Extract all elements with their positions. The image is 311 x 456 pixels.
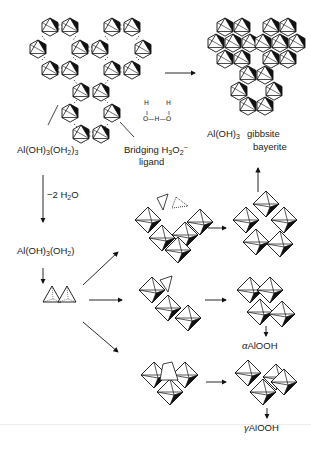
label-gibbsite: gibbsite [247,128,280,139]
label-gibbsite-formula: Al(OH)3 [207,128,240,142]
h3o2-h-right: H [166,100,171,107]
pointer-bridging [120,122,134,137]
octahedra-row3-product [235,360,297,405]
tetrahedra-pair [43,286,76,302]
scan-artifact-line [0,424,311,425]
arrow-branch-up [83,252,118,285]
octahedra-row2-product [237,277,295,327]
label-monomer-hydrate: Al(OH)3(OH2)3 [17,144,78,158]
h3o2-chain: O—H—O [143,116,171,123]
label-ligand: ligand [139,156,164,167]
label-bayerite: bayerite [253,141,287,152]
octahedra-row3-reactant [141,362,198,405]
gibbsite-sheet [208,18,305,115]
h3o2-h-left: H [144,100,149,107]
pointer-monomer [48,105,58,125]
octahedra-row2-reactant [139,276,201,331]
octahedra-row1-reactant [135,194,213,263]
label-monomer-partial: Al(OH)3(OH2) [17,245,74,259]
label-dehydration: −2 H2O [47,189,79,203]
label-alpha-alooh: αAlOOH [242,340,278,351]
diagram-canvas [0,0,311,456]
arrow-branch-down [83,322,118,352]
octahedra-row1-product [233,191,297,257]
